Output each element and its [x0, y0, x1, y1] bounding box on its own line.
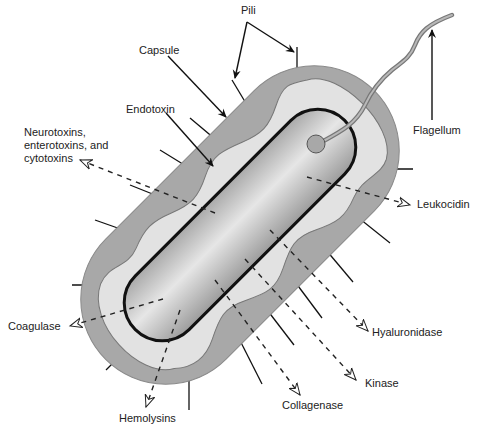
label-hemolysins: Hemolysins [119, 412, 176, 425]
label-hyaluronidase: Hyaluronidase [372, 326, 442, 339]
label-endotoxin: Endotoxin [126, 103, 175, 116]
label-flagellum: Flagellum [413, 124, 461, 137]
bacterium-diagram [0, 0, 481, 436]
label-kinase: Kinase [365, 377, 399, 390]
basal-body [307, 135, 325, 153]
label-neurotoxins: Neurotoxins, enterotoxins, and cytotoxin… [24, 126, 108, 165]
label-coagulase: Coagulase [8, 320, 61, 333]
label-collagenase: Collagenase [282, 399, 343, 412]
label-leukocidin: Leukocidin [417, 198, 470, 211]
label-pili: Pili [241, 4, 256, 17]
label-capsule: Capsule [139, 44, 179, 57]
